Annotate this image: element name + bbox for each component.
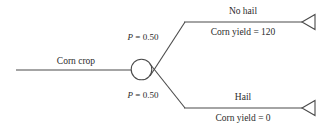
root-label-corn-crop: Corn crop	[57, 57, 95, 67]
probability-label-hail: P = 0.50	[128, 91, 159, 100]
outcome-label-hail: Hail	[235, 93, 251, 103]
decision-tree-diagram: Corn crop P = 0.50 No hail Corn yield = …	[0, 0, 326, 132]
chance-node-circle	[131, 59, 152, 80]
branch-line-no-hail-diagonal	[150, 22, 185, 76]
payoff-label-no-hail: Corn yield = 120	[211, 28, 276, 38]
payoff-label-hail: Corn yield = 0	[215, 114, 270, 124]
outcome-label-no-hail: No hail	[229, 7, 257, 17]
probability-variable-hail: P	[128, 90, 134, 100]
terminal-node-triangle-no-hail	[302, 15, 315, 30]
probability-variable-no-hail: P	[128, 32, 134, 42]
tree-lines-svg	[0, 0, 326, 132]
branch-line-hail-diagonal	[150, 64, 185, 108]
probability-value-no-hail: = 0.50	[135, 32, 158, 42]
probability-value-hail: = 0.50	[135, 90, 158, 100]
terminal-node-triangle-hail	[302, 101, 315, 116]
probability-label-no-hail: P = 0.50	[128, 33, 159, 42]
